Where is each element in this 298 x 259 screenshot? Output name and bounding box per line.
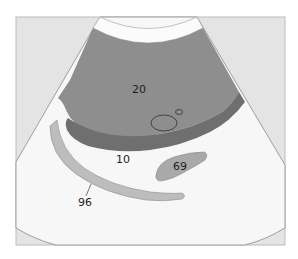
- label-region-69: 69: [173, 160, 187, 173]
- label-region-20: 20: [132, 83, 146, 96]
- label-region-96: 96: [78, 196, 92, 209]
- label-region-10: 10: [116, 153, 130, 166]
- ultrasound-diagram: 20 10 69 96: [0, 0, 298, 259]
